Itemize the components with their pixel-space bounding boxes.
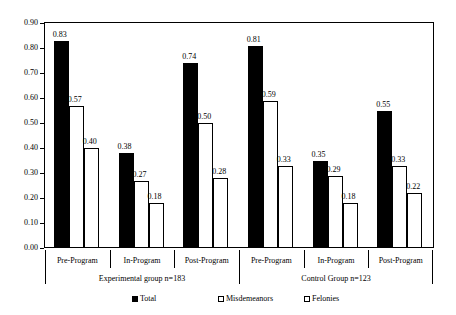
x-axis-group-label: Experimental group n=183 — [45, 274, 239, 283]
bar-misdemeanors-5 — [392, 166, 407, 249]
x-axis-group-label: Control Group n=123 — [239, 274, 433, 283]
bar-value-label: 0.57 — [68, 96, 82, 104]
bar-value-label: 0.74 — [182, 53, 196, 61]
bars-layer: 0.830.570.400.380.270.180.740.500.280.81… — [45, 23, 433, 248]
bar-value-label: 0.83 — [53, 31, 67, 39]
bar-misdemeanors-4 — [328, 176, 343, 249]
bar-misdemeanors-1 — [134, 181, 149, 249]
bar-total-4 — [313, 161, 328, 249]
bar-value-label: 0.35 — [312, 151, 326, 159]
x-axis-category-label: Post-Program — [368, 256, 433, 265]
y-axis-tick-label: 0.30 — [0, 169, 38, 177]
y-axis-tick-label: 0.70 — [0, 69, 38, 77]
bar-value-label: 0.38 — [118, 143, 132, 151]
legend-item-total[interactable]: Total — [132, 294, 156, 303]
y-axis-tick-label: 0.20 — [0, 194, 38, 202]
chart-figure: 0.000.100.200.300.400.500.600.700.800.90… — [0, 0, 456, 315]
y-axis-tick-label: 0.50 — [0, 119, 38, 127]
bar-felonies-0 — [84, 148, 99, 248]
bar-value-label: 0.29 — [327, 166, 341, 174]
bar-misdemeanors-0 — [69, 106, 84, 249]
bar-value-label: 0.40 — [83, 138, 97, 146]
bar-felonies-2 — [213, 178, 228, 248]
y-axis-tick-label: 0.90 — [0, 19, 38, 27]
bar-total-5 — [377, 111, 392, 249]
legend-item-felonies[interactable]: Felonies — [304, 294, 339, 303]
bar-value-label: 0.28 — [212, 168, 226, 176]
y-axis-tick-label: 0.00 — [0, 244, 38, 252]
y-axis-tick-label: 0.10 — [0, 219, 38, 227]
legend-item-misdemeanors[interactable]: Misdemeanors — [218, 294, 273, 303]
legend-swatch-icon — [304, 296, 310, 302]
x-axis-category-label: Pre-Program — [239, 256, 304, 265]
y-axis-tick-label: 0.40 — [0, 144, 38, 152]
bar-felonies-4 — [343, 203, 358, 248]
chart-legend: TotalMisdemeanorsFelonies — [0, 294, 456, 308]
legend-label: Felonies — [312, 294, 339, 303]
bar-total-3 — [248, 46, 263, 249]
bar-value-label: 0.33 — [391, 156, 405, 164]
x-axis-category-label: In-Program — [304, 256, 369, 265]
legend-swatch-icon — [218, 296, 224, 302]
bar-misdemeanors-2 — [198, 123, 213, 248]
bar-value-label: 0.18 — [148, 193, 162, 201]
bar-total-2 — [183, 63, 198, 248]
legend-label: Total — [140, 294, 156, 303]
x-axis-group-bracket — [432, 250, 433, 284]
legend-swatch-icon — [132, 296, 138, 302]
bar-value-label: 0.22 — [406, 183, 420, 191]
bar-misdemeanors-3 — [263, 101, 278, 249]
legend-label: Misdemeanors — [226, 294, 273, 303]
bar-value-label: 0.27 — [133, 171, 147, 179]
y-axis-tick-mark — [40, 248, 44, 249]
bar-total-1 — [119, 153, 134, 248]
bar-value-label: 0.33 — [277, 156, 291, 164]
bar-felonies-3 — [278, 166, 293, 249]
x-axis-category-label: In-Program — [110, 256, 175, 265]
bar-value-label: 0.81 — [247, 36, 261, 44]
bar-total-0 — [54, 41, 69, 249]
x-axis-group-bracket — [45, 250, 46, 284]
bar-felonies-1 — [149, 203, 164, 248]
bar-value-label: 0.18 — [342, 193, 356, 201]
x-axis-category-label: Post-Program — [174, 256, 239, 265]
x-axis-category-label: Pre-Program — [45, 256, 110, 265]
y-axis-tick-label: 0.80 — [0, 44, 38, 52]
y-axis-tick-label: 0.60 — [0, 94, 38, 102]
bar-value-label: 0.59 — [262, 91, 276, 99]
bar-value-label: 0.50 — [197, 113, 211, 121]
bar-felonies-5 — [407, 193, 422, 248]
bar-value-label: 0.55 — [376, 101, 390, 109]
